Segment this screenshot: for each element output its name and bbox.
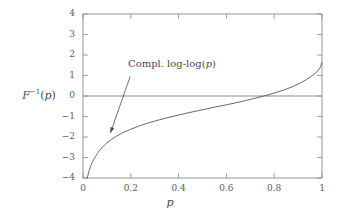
annotation-prefix: Compl. log-log( <box>128 58 206 69</box>
x-tick-label-3: 0.6 <box>211 183 241 193</box>
y-tick-label-5: −1 <box>45 111 75 121</box>
annotation-arrow-head <box>110 127 114 133</box>
y-axis-label-exponent: −1 <box>30 88 40 96</box>
y-tick-label-6: −2 <box>45 131 75 141</box>
x-tick-label-4: 0.8 <box>259 183 289 193</box>
y-tick-label-1: 3 <box>45 29 75 39</box>
curve-annotation-label: Compl. log-log(p) <box>128 58 216 69</box>
x-tick-label-0: 0 <box>68 183 98 193</box>
curve-path-compl-log-log <box>87 63 321 178</box>
y-tick-label-7: −3 <box>45 152 75 162</box>
x-axis-label: p <box>150 196 190 209</box>
y-tick-label-3: 1 <box>45 70 75 80</box>
y-tick-label-8: −4 <box>45 172 75 182</box>
y-tick-label-0: 4 <box>45 8 75 18</box>
x-tick-label-2: 0.4 <box>164 183 194 193</box>
x-tick-label-5: 1 <box>307 183 337 193</box>
annotation-arrow-line <box>110 76 130 132</box>
y-axis-label-base: F <box>22 89 30 102</box>
y-tick-label-2: 2 <box>45 49 75 59</box>
x-tick-label-1: 0.2 <box>116 183 146 193</box>
annotation-arrow <box>110 76 130 132</box>
y-axis-label-arg: p <box>44 89 51 102</box>
y-axis-label: F−1(p) <box>8 88 70 102</box>
data-curve-compl-log-log <box>87 63 321 178</box>
chart-figure: 43210−1−2−3−4 00.20.40.60.81 F−1(p) p Co… <box>0 0 340 216</box>
annotation-suffix: ) <box>212 58 216 69</box>
